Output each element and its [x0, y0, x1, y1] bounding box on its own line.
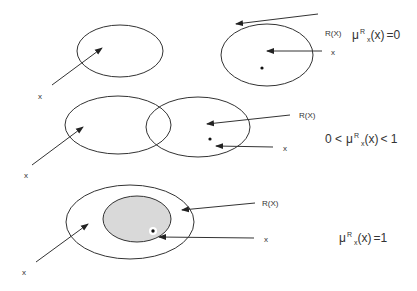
point-x [208, 137, 211, 140]
x-label-right: x [331, 48, 335, 57]
rx-ellipse [146, 97, 250, 157]
set-x-ellipse [77, 25, 163, 77]
x-label-left: x [38, 92, 42, 101]
r-label: R(X) [325, 29, 342, 38]
r-label: R(X) [262, 199, 279, 208]
membership-equation: μRx(x)=0 [352, 28, 400, 43]
arrow-to-rx [236, 14, 318, 24]
arrow-to-x-point [216, 146, 273, 147]
arrow-to-x [32, 127, 83, 165]
panel-contained: x R(X) x μRx(x)=1 [22, 185, 387, 277]
rx-ellipse [221, 24, 313, 86]
x-label-left: x [24, 171, 28, 180]
set-x-ellipse [65, 96, 171, 154]
panel-disjoint: x R(X) x μRx(x)=0 [38, 14, 400, 101]
r-label: R(X) [299, 111, 316, 120]
x-label-right: x [264, 235, 268, 244]
membership-equation: μRx(x)=1 [339, 231, 387, 246]
rough-membership-diagram: x R(X) x μRx(x)=0 x R(X) x 0 <μRx(x)< 1 … [0, 0, 417, 291]
panel-overlap: x R(X) x 0 <μRx(x)< 1 [24, 96, 398, 180]
rx-ellipse-shaded [103, 196, 171, 242]
arrow-to-x [36, 224, 88, 262]
point-x [260, 66, 263, 69]
x-label-left: x [22, 268, 26, 277]
point-x [151, 229, 154, 232]
x-label-right: x [283, 144, 287, 153]
membership-equation: 0 <μRx(x)< 1 [325, 132, 398, 147]
arrow-to-rx [182, 203, 255, 210]
arrow-to-rx [207, 115, 290, 124]
arrow-to-x-point [159, 237, 254, 238]
